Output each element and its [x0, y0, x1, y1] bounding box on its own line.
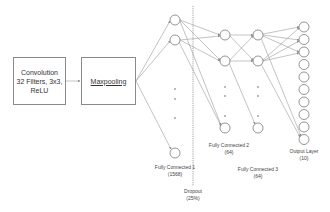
fc1-label: Fully Connected 1 (1568) [155, 164, 195, 178]
network-graph [0, 0, 330, 212]
output-name: Output Layer [290, 148, 319, 155]
dropout-label: Dropout (25%) [184, 188, 202, 202]
output-nodes [299, 22, 309, 145]
fc2-name: Fully Connected 2 [209, 142, 249, 149]
conv-line-3: ReLU [17, 86, 63, 95]
fc2-label: Fully Connected 2 (64) [209, 142, 249, 156]
cnn-architecture-diagram: Convolution 32 Filters, 3x3, ReLU Maxpoo… [0, 0, 330, 212]
output-size: (10) [290, 155, 319, 162]
conv-line-2: 32 Filters, 3x3, [17, 77, 63, 86]
dropout-size: (25%) [184, 195, 202, 202]
output-label: Output Layer (10) [290, 148, 319, 162]
fc2-ellipsis [224, 86, 226, 117]
fc1-ellipsis [174, 88, 176, 119]
maxpooling-label: Maxpooling [91, 77, 127, 86]
fc2-size: (64) [209, 149, 249, 156]
fc2-nodes [220, 30, 230, 133]
convolution-box: Convolution 32 Filters, 3x3, ReLU [13, 57, 66, 105]
maxpooling-box: Maxpooling [81, 57, 136, 105]
fc1-nodes [170, 15, 180, 158]
fc1-size: (1568) [155, 171, 195, 178]
fc1-name: Fully Connected 1 [155, 164, 195, 171]
fc3-ellipsis [257, 86, 259, 117]
fc3-name: Fully Connected 3 [238, 166, 278, 173]
dropout-name: Dropout [184, 188, 202, 195]
conv-line-1: Convolution [17, 68, 63, 77]
fc3-nodes [253, 30, 263, 133]
fc3-label: Fully Connected 3 (64) [238, 166, 278, 180]
fc3-size: (64) [238, 173, 278, 180]
